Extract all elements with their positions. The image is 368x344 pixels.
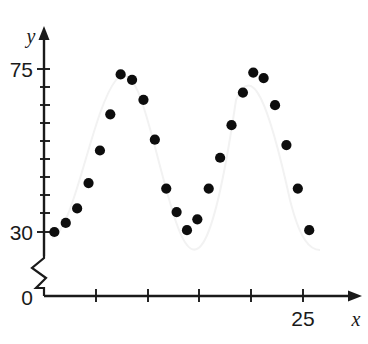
x-axis-label: x — [351, 308, 361, 330]
trend-curve — [52, 76, 320, 250]
scatter-plot-figure: 75 30 0 25 y x — [0, 0, 368, 344]
data-point — [49, 227, 59, 237]
x-axis-tick-label-25: 25 — [291, 307, 314, 330]
data-point-layer — [49, 68, 314, 238]
data-point — [304, 225, 314, 235]
data-point — [172, 207, 182, 217]
data-point — [138, 95, 148, 105]
data-point — [215, 153, 225, 163]
y-axis-arrow-icon — [39, 26, 50, 40]
data-point — [182, 225, 192, 235]
plot-canvas: 75 30 0 25 y x — [0, 0, 368, 344]
x-axis-arrow-icon — [348, 291, 362, 302]
data-point — [116, 69, 126, 79]
data-point — [105, 109, 115, 119]
data-point — [61, 218, 71, 228]
data-point — [248, 68, 258, 78]
y-axis-break-icon — [32, 256, 46, 296]
data-point — [72, 203, 82, 213]
data-point — [192, 214, 202, 224]
y-axis-tick-label-75: 75 — [10, 58, 33, 81]
y-axis-origin-label: 0 — [21, 286, 33, 309]
data-point — [161, 183, 171, 193]
data-point — [270, 100, 280, 110]
y-axis-label: y — [25, 25, 36, 48]
data-point — [95, 145, 105, 155]
data-point — [293, 183, 303, 193]
data-point — [238, 87, 248, 97]
data-point — [150, 135, 160, 145]
data-point — [281, 140, 291, 150]
data-point — [259, 73, 269, 83]
data-point — [127, 75, 137, 85]
y-axis-tick-label-30: 30 — [10, 221, 33, 244]
data-point — [83, 178, 93, 188]
data-point — [226, 120, 236, 130]
data-point — [204, 183, 214, 193]
